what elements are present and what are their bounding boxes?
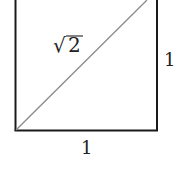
radicand: 2 [68,33,81,57]
diagonal-line [16,0,147,130]
diagonal-label: √ 2 [53,33,83,57]
right-side-label: 1 [164,49,175,70]
square-diagonal-diagram: √ 2 1 1 [0,0,190,174]
bottom-side-label: 1 [81,137,92,158]
radical-sign: √ [53,33,66,57]
